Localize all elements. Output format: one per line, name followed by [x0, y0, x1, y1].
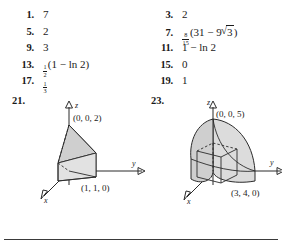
vertex-label-top: (0, 0, 5) [216, 109, 245, 119]
answer-item: 15. 0 [151, 58, 276, 75]
axis-label-y: y [131, 159, 136, 168]
vertex-label-top: (0, 0, 2) [73, 113, 102, 123]
answer-item: 5. 2 [12, 25, 141, 42]
answer-number: 7. [151, 27, 173, 38]
answer-item: 1. 7 [12, 8, 141, 25]
answer-item: 3. 2 [151, 8, 276, 25]
solid-left-surface [191, 119, 213, 182]
answer-value: 1 − ln 2 [173, 41, 216, 53]
answer-column-left: 1. 7 5. 2 9. 3 13. 12(1 − ln 2) 17. 13 [6, 8, 141, 91]
answer-columns: 1. 7 5. 2 9. 3 13. 12(1 − ln 2) 17. 13 [6, 8, 276, 91]
figure-row: 21. z y x [6, 93, 276, 205]
answer-item: 13. 12(1 − ln 2) [12, 58, 141, 75]
answer-number: 11. [151, 42, 173, 53]
answer-value: 2 [34, 25, 49, 37]
answer-expression-tail: ) [234, 26, 238, 38]
answer-number: 17. [12, 75, 34, 86]
figure-number: 23. [151, 95, 164, 106]
answer-value: 7 [34, 8, 49, 20]
answer-number: 19. [151, 75, 173, 86]
radicand: 3 [226, 25, 233, 38]
answer-expression: (31 − 9 [190, 26, 222, 38]
vertex-label-base: (3, 4, 0) [231, 188, 260, 198]
answer-number: 5. [12, 26, 34, 37]
answer-item: 19. 1 [151, 74, 276, 91]
answer-value: 2 [173, 8, 188, 20]
answer-item: 7. 815(31 − 93) [151, 25, 276, 42]
answer-value: 0 [173, 58, 188, 70]
answer-item: 11. 1 − ln 2 [151, 41, 276, 58]
answer-number: 15. [151, 59, 173, 70]
answer-number: 3. [151, 9, 173, 20]
axis-label-z: z [74, 101, 79, 110]
figure-23: 23. z y x [141, 93, 276, 205]
answer-value: 3 [34, 41, 49, 53]
answer-value: 1 [173, 74, 188, 86]
answer-column-right: 3. 2 7. 815(31 − 93) 11. 1 − ln 2 15. 0 … [141, 8, 276, 91]
answer-key-page: 1. 7 5. 2 9. 3 13. 12(1 − ln 2) 17. 13 [0, 0, 282, 245]
answer-number: 1. [12, 9, 34, 20]
answer-number: 13. [12, 59, 34, 70]
answer-number: 9. [12, 42, 34, 53]
figure-number: 21. [12, 95, 25, 106]
footer-divider [4, 239, 278, 240]
square-root-icon: 3 [222, 25, 234, 38]
answer-item: 9. 3 [12, 41, 141, 58]
vertex-label-base: (1, 1, 0) [81, 183, 110, 193]
axis-label-x: x [43, 196, 48, 205]
answer-expression: (1 − ln 2) [48, 58, 89, 70]
quarter-dome-diagram: z y x [173, 93, 282, 205]
axis-label-y: y [269, 158, 274, 167]
axis-label-x: x [186, 197, 191, 205]
tetrahedron-diagram: z y x (0, 0, 2) (1, 1, 0 [34, 93, 152, 205]
figure-21: 21. z y x [6, 93, 141, 205]
